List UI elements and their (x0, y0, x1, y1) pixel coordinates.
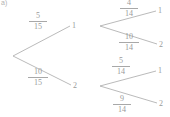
fraction-denominator: 14 (120, 10, 138, 19)
fraction-numerator: 10 (28, 68, 48, 77)
fraction-denominator: 15 (29, 23, 47, 32)
fraction-denominator: 14 (119, 44, 139, 53)
fraction-denominator: 15 (28, 79, 48, 88)
probability-label-stage2b-bottom: 9 14 (113, 95, 131, 114)
fraction-numerator: 5 (29, 12, 47, 21)
outcome-label-stage2a-top: 1 (158, 6, 162, 15)
fraction-denominator: 14 (112, 68, 130, 77)
outcome-label-stage2a-bottom: 2 (159, 40, 163, 49)
fraction-numerator: 4 (120, 0, 138, 8)
probability-label-stage2a-top: 4 14 (120, 0, 138, 18)
outcome-label-stage2b-bottom: 2 (159, 99, 163, 108)
probability-label-stage2a-bottom: 10 14 (119, 33, 139, 52)
fraction-numerator: 9 (113, 95, 131, 104)
tree-branches (0, 0, 170, 117)
probability-label-stage1-top: 5 15 (29, 12, 47, 31)
fraction-numerator: 5 (112, 57, 130, 66)
probability-tree-figure: a) 5 15 10 15 1 2 4 14 10 14 (0, 0, 170, 117)
fraction-numerator: 10 (119, 33, 139, 42)
outcome-label-stage1-bottom: 2 (73, 81, 77, 90)
probability-label-stage1-bottom: 10 15 (28, 68, 48, 87)
probability-label-stage2b-top: 5 14 (112, 57, 130, 76)
fraction-denominator: 14 (113, 106, 131, 115)
outcome-label-stage2b-top: 1 (158, 66, 162, 75)
outcome-label-stage1-top: 1 (72, 21, 76, 30)
